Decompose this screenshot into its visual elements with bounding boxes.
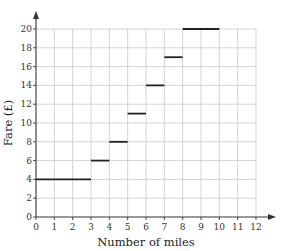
grid-lines xyxy=(36,29,256,217)
y-axis-arrow-icon xyxy=(33,11,39,19)
x-tick-label: 0 xyxy=(33,222,39,232)
y-tick-label: 4 xyxy=(26,174,32,184)
y-tick-label: 0 xyxy=(26,212,32,222)
y-tick-label: 2 xyxy=(26,193,32,203)
x-tick-label: 7 xyxy=(161,222,167,232)
x-tick-label: 2 xyxy=(70,222,76,232)
x-tick-label: 11 xyxy=(232,222,243,232)
x-tick-label: 6 xyxy=(143,222,149,232)
x-tick-label: 9 xyxy=(198,222,204,232)
y-axis-title: Fare (£) xyxy=(1,100,15,146)
x-axis-title: Number of miles xyxy=(97,235,195,249)
y-tick-label: 18 xyxy=(21,43,33,53)
y-axis-ticks: 02468101214161820 xyxy=(21,24,36,222)
x-tick-label: 12 xyxy=(250,222,261,232)
step-chart: 0123456789101112 02468101214161820 Numbe… xyxy=(0,0,281,251)
x-axis-ticks: 0123456789101112 xyxy=(33,217,262,232)
x-tick-label: 8 xyxy=(180,222,186,232)
x-tick-label: 3 xyxy=(88,222,94,232)
y-tick-label: 14 xyxy=(21,80,33,90)
y-tick-label: 12 xyxy=(21,99,32,109)
x-tick-label: 1 xyxy=(51,222,57,232)
y-tick-label: 16 xyxy=(21,62,33,72)
y-tick-label: 20 xyxy=(21,24,33,34)
x-axis-arrow-icon xyxy=(268,214,276,220)
x-tick-label: 10 xyxy=(214,222,226,232)
x-tick-label: 4 xyxy=(106,222,112,232)
axes xyxy=(33,11,276,220)
x-tick-label: 5 xyxy=(125,222,131,232)
y-tick-label: 8 xyxy=(26,137,32,147)
y-tick-label: 6 xyxy=(26,156,32,166)
y-tick-label: 10 xyxy=(21,118,33,128)
